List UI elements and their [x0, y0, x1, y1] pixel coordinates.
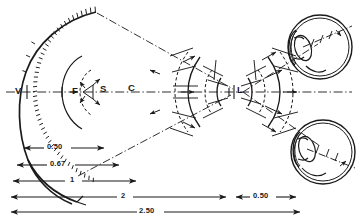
optical-schematic-svg	[0, 0, 360, 221]
eye-model-upper	[288, 15, 352, 79]
point-label-S: S	[100, 84, 107, 94]
dimension-label-0-50-right: 0.50	[253, 192, 268, 200]
dimension-label-0-50-left: 0.50	[47, 143, 62, 151]
beam-cone-boundary	[78, 13, 320, 176]
dimension-lines	[11, 148, 300, 212]
dimension-label-2-50: 2.50	[139, 207, 154, 215]
dimension-label-1: 1	[70, 176, 74, 184]
point-label-C: C	[128, 83, 135, 93]
dimension-label-0-67: 0.67	[50, 160, 65, 168]
point-label-F: F	[72, 86, 78, 96]
eye-model-lower	[291, 120, 355, 184]
wavefront-hatching	[22, 7, 95, 183]
figure-canvas: V F S C L 0.50 0.67 1 2 2.50 0.50	[0, 0, 360, 221]
inner-wavefront-arc-dashed	[80, 70, 91, 115]
point-label-V: V	[15, 86, 22, 96]
dimension-label-2: 2	[121, 192, 125, 200]
point-label-L: L	[237, 85, 243, 95]
